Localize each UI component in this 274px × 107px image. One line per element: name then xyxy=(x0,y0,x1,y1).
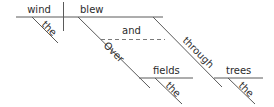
subject-article-word: the xyxy=(40,19,59,38)
conjunction-word: and xyxy=(122,25,141,36)
object-2-article-word: the xyxy=(237,80,256,99)
object-1-word: fields xyxy=(153,65,180,76)
sentence-diagram: wind blew the Over and fields the throug… xyxy=(0,0,274,107)
preposition-2-line xyxy=(153,17,222,87)
predicate-word: blew xyxy=(80,4,103,15)
preposition-2-word: through xyxy=(181,35,217,71)
object-2-word: trees xyxy=(226,65,251,76)
object-1-article-word: the xyxy=(164,80,183,99)
subject-word: wind xyxy=(27,4,51,15)
